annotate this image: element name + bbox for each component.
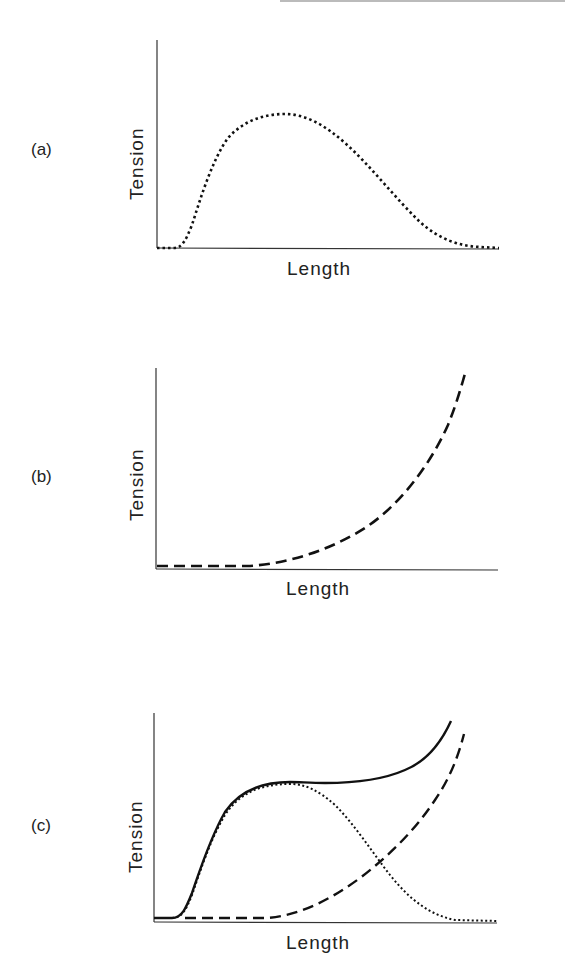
curve-b-passive-dashed: [157, 370, 466, 566]
curve-c-total-solid: [154, 721, 451, 918]
curve-a-active-dotted: [157, 114, 499, 248]
curve-c-passive-dashed: [185, 734, 464, 918]
axes-a: [157, 40, 499, 249]
axes-b: [156, 368, 498, 570]
axes-c: [154, 713, 497, 923]
figure-plots: [0, 0, 565, 969]
